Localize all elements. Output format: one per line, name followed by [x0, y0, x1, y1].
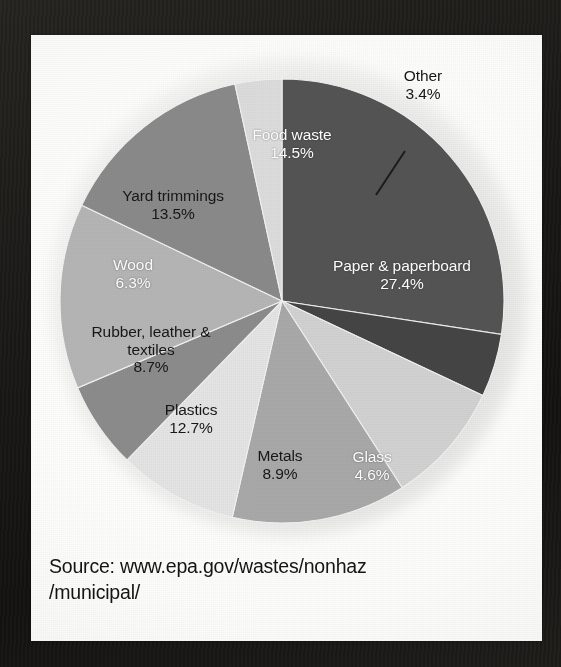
- slice-label-name: Metals: [230, 447, 330, 465]
- document-page: Paper & paperboard 27.4% Glass 4.6% Meta…: [31, 35, 542, 641]
- slice-label-name: Wood: [78, 256, 188, 274]
- slice-label-percent: 27.4%: [287, 275, 517, 293]
- slice-label-name: Paper & paperboard: [287, 257, 517, 275]
- slice-label-glass: Glass 4.6%: [327, 448, 417, 483]
- slice-label-plastics: Plastics 12.7%: [136, 401, 246, 436]
- slice-label-other: Other 3.4%: [371, 67, 475, 102]
- pie-chart: Paper & paperboard 27.4% Glass 4.6% Meta…: [31, 35, 542, 535]
- photo-border: Paper & paperboard 27.4% Glass 4.6% Meta…: [0, 0, 561, 667]
- slice-label-name-2: textiles: [53, 341, 249, 359]
- slice-label-percent: 13.5%: [88, 205, 258, 223]
- slice-label-percent: 4.6%: [327, 466, 417, 484]
- slice-label-name: Plastics: [136, 401, 246, 419]
- slice-label-percent: 8.9%: [230, 465, 330, 483]
- source-note: Source: www.epa.gov/wastes/nonhaz /munic…: [49, 554, 519, 606]
- slice-label-paper-paperboard: Paper & paperboard 27.4%: [287, 257, 517, 292]
- source-note-line-2: /municipal/: [49, 580, 519, 606]
- pie-slice-paper-paperboard: [282, 79, 504, 334]
- slice-label-rubber-leather-textiles: Rubber, leather & textiles 8.7%: [53, 323, 249, 376]
- slice-label-wood: Wood 6.3%: [78, 256, 188, 291]
- slice-label-name: Rubber, leather &: [53, 323, 249, 341]
- source-note-line-1: Source: www.epa.gov/wastes/nonhaz: [49, 554, 519, 580]
- slice-label-percent: 14.5%: [217, 144, 367, 162]
- slice-label-yard-trimmings: Yard trimmings 13.5%: [88, 187, 258, 222]
- slice-label-percent: 6.3%: [78, 274, 188, 292]
- slice-label-food-waste: Food waste 14.5%: [217, 126, 367, 161]
- slice-label-percent: 12.7%: [136, 419, 246, 437]
- slice-label-name: Yard trimmings: [88, 187, 258, 205]
- slice-label-percent: 8.7%: [53, 358, 249, 376]
- slice-label-name: Other: [371, 67, 475, 85]
- slice-label-name: Food waste: [217, 126, 367, 144]
- slice-label-metals: Metals 8.9%: [230, 447, 330, 482]
- slice-label-name: Glass: [327, 448, 417, 466]
- slice-label-percent: 3.4%: [371, 85, 475, 103]
